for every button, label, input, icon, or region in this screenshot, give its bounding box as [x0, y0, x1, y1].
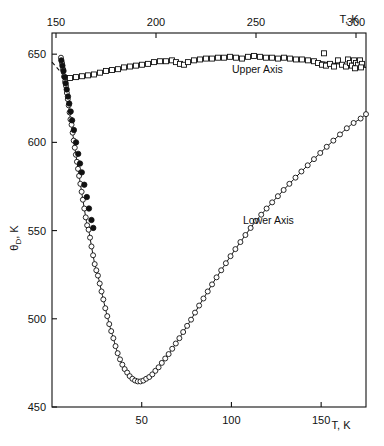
data-point-filled-circle: [89, 217, 94, 222]
chart-figure: 45050055060065050100150150200250300 Uppe…: [0, 0, 384, 446]
data-point-open-square: [332, 64, 337, 69]
x-lower-tick-label: 150: [312, 414, 330, 426]
data-point-open-circle: [107, 322, 112, 327]
data-point-open-square: [270, 55, 275, 60]
data-point-open-circle: [299, 169, 304, 174]
data-point-open-square: [306, 58, 311, 63]
data-point-open-square: [146, 61, 151, 66]
data-point-open-circle: [189, 317, 194, 322]
upper-axis-label: Upper Axis: [232, 63, 283, 75]
x-lower-axis-title: T, K: [332, 419, 352, 431]
data-point-open-circle: [163, 356, 168, 361]
data-point-open-circle: [79, 189, 84, 194]
y-tick-label: 600: [28, 136, 46, 148]
y-tick-label: 650: [28, 48, 46, 60]
data-point-open-square: [216, 55, 221, 60]
data-point-filled-circle: [60, 63, 65, 68]
data-point-open-circle: [305, 163, 310, 168]
x-upper-axis-title: T, K: [340, 13, 360, 25]
data-point-open-square: [294, 57, 299, 62]
data-point-open-circle: [238, 240, 243, 245]
y-tick-label: 450: [28, 401, 46, 413]
data-point-open-square: [234, 55, 239, 60]
y-tick-label: 500: [28, 313, 46, 325]
data-point-open-circle: [156, 365, 161, 370]
data-point-open-circle: [214, 275, 219, 280]
data-point-open-circle: [318, 150, 323, 155]
data-point-open-circle: [118, 357, 123, 362]
data-point-filled-circle: [59, 58, 64, 63]
data-point-open-square: [116, 67, 121, 72]
data-point-open-square: [80, 74, 85, 79]
data-point-open-circle: [223, 261, 228, 266]
data-point-open-circle: [193, 310, 198, 315]
data-point-open-circle: [270, 200, 275, 205]
data-point-open-square: [122, 65, 127, 70]
data-point-open-square: [140, 62, 145, 67]
data-point-open-square: [134, 63, 139, 68]
data-point-open-square: [353, 66, 358, 71]
data-point-open-circle: [358, 116, 363, 121]
data-point-open-circle: [95, 273, 100, 278]
data-point-open-circle: [233, 247, 238, 252]
data-point-open-circle: [72, 145, 77, 150]
data-point-open-circle: [111, 336, 116, 341]
x-upper-tick-label: 250: [247, 16, 265, 28]
data-point-open-square: [110, 68, 115, 73]
data-point-open-square: [86, 73, 91, 78]
data-point-open-square: [192, 58, 197, 63]
data-point-open-circle: [115, 351, 120, 356]
data-point-filled-circle: [73, 140, 78, 145]
data-point-open-circle: [287, 181, 292, 186]
data-point-open-circle: [281, 188, 286, 193]
data-point-open-circle: [205, 289, 210, 294]
data-point-open-circle: [248, 225, 253, 230]
data-point-open-square: [186, 60, 191, 65]
data-point-open-circle: [364, 112, 369, 117]
data-point-filled-circle: [77, 161, 82, 166]
data-point-filled-circle: [79, 170, 84, 175]
lower-axis-label: Lower Axis: [243, 214, 294, 226]
data-point-open-circle: [103, 306, 108, 311]
data-point-open-square: [276, 56, 281, 61]
data-point-filled-circle: [64, 87, 69, 92]
data-point-open-circle: [293, 175, 298, 180]
data-point-open-circle: [324, 144, 329, 149]
data-point-open-circle: [181, 330, 186, 335]
data-point-open-circle: [210, 282, 215, 287]
data-point-open-square: [288, 56, 293, 61]
data-point-open-circle: [173, 341, 178, 346]
data-point-filled-circle: [68, 109, 73, 114]
data-point-open-square: [240, 56, 245, 61]
data-point-filled-circle: [86, 206, 91, 211]
data-point-filled-circle: [71, 127, 76, 132]
data-point-filled-circle: [67, 101, 72, 106]
data-point-open-circle: [113, 344, 118, 349]
data-point-open-circle: [201, 296, 206, 301]
x-lower-tick-label: 100: [222, 414, 240, 426]
data-point-open-square: [98, 70, 103, 75]
data-point-open-circle: [344, 126, 349, 131]
data-point-open-circle: [351, 120, 356, 125]
data-point-open-circle: [170, 346, 175, 351]
data-point-filled-circle: [82, 182, 87, 187]
data-point-open-square: [68, 75, 73, 80]
data-point-open-square: [300, 57, 305, 62]
x-upper-tick-label: 200: [147, 16, 165, 28]
x-upper-tick-label: 150: [47, 16, 65, 28]
data-point-open-circle: [92, 262, 97, 267]
debye-temperature-chart: 45050055060065050100150150200250300 Uppe…: [0, 0, 384, 446]
data-point-open-square: [128, 64, 133, 69]
data-point-filled-circle: [69, 118, 74, 123]
data-point-open-square: [322, 51, 327, 56]
data-point-open-circle: [159, 360, 164, 365]
data-point-open-square: [92, 72, 97, 77]
data-point-open-square: [210, 56, 215, 61]
data-point-open-square: [74, 75, 79, 80]
data-point-open-circle: [99, 289, 104, 294]
data-point-open-square: [282, 55, 287, 60]
data-point-open-square: [164, 59, 169, 64]
data-point-open-circle: [166, 352, 171, 357]
data-point-open-circle: [101, 297, 106, 302]
data-point-open-circle: [83, 215, 88, 220]
